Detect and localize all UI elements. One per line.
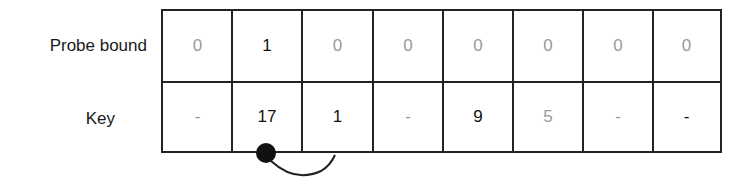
probe-pointer-arrow: [0, 0, 751, 183]
pointer-origin-dot: [256, 143, 276, 163]
pointer-arc: [271, 155, 335, 175]
